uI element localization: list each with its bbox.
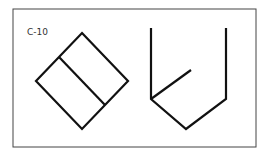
open-pentagon-shape	[151, 28, 226, 129]
inner-diagonal-line	[151, 70, 191, 99]
rotated-square-with-divider	[36, 33, 128, 129]
figure-label: C-10	[27, 27, 48, 37]
diamond-divider-line	[59, 57, 105, 105]
container-outline	[151, 28, 226, 129]
figure-canvas: C-10	[0, 0, 267, 155]
figure-frame	[13, 9, 256, 147]
